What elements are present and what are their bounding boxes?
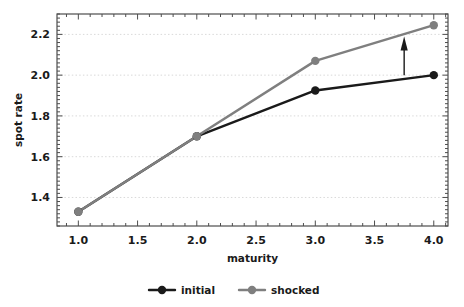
x-tick-label-1: 1.5: [128, 234, 148, 247]
legend-marker-shocked: [248, 286, 256, 294]
data-point-shocked-1: [74, 208, 82, 216]
y-tick-label-3: 2.0: [31, 69, 51, 82]
x-axis-title: maturity: [227, 252, 278, 264]
y-tick-label-4: 2.2: [31, 28, 51, 41]
legend-marker-initial: [158, 286, 166, 294]
x-tick-label-0: 1.0: [69, 234, 89, 247]
legend-label-initial: initial: [181, 284, 215, 296]
y-tick-label-1: 1.6: [31, 151, 51, 164]
x-tick-label-6: 4.0: [424, 234, 444, 247]
x-tick-label-5: 3.5: [365, 234, 385, 247]
data-point-shocked-2: [193, 132, 201, 140]
legend-label-shocked: shocked: [271, 284, 320, 296]
data-point-initial-4: [430, 71, 438, 79]
spot-rate-line-chart: 1.01.52.02.53.03.54.0 1.41.61.82.02.2 ma…: [0, 0, 464, 307]
data-point-shocked-4: [430, 21, 438, 29]
y-tick-label-0: 1.4: [31, 191, 51, 204]
x-tick-label-4: 3.0: [306, 234, 326, 247]
data-point-shocked-3: [311, 57, 319, 65]
chart-container: 1.01.52.02.53.03.54.0 1.41.61.82.02.2 ma…: [0, 0, 464, 307]
y-tick-label-2: 1.8: [31, 110, 51, 123]
y-axis-title: spot rate: [12, 93, 24, 147]
x-tick-label-2: 2.0: [187, 234, 207, 247]
data-point-initial-3: [311, 86, 319, 94]
x-tick-label-3: 2.5: [246, 234, 266, 247]
